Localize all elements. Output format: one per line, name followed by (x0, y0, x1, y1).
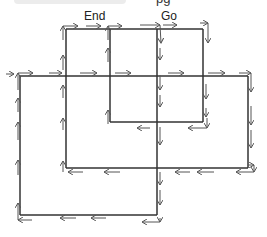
path-diagram (0, 0, 267, 237)
direction-arrow (160, 25, 161, 43)
